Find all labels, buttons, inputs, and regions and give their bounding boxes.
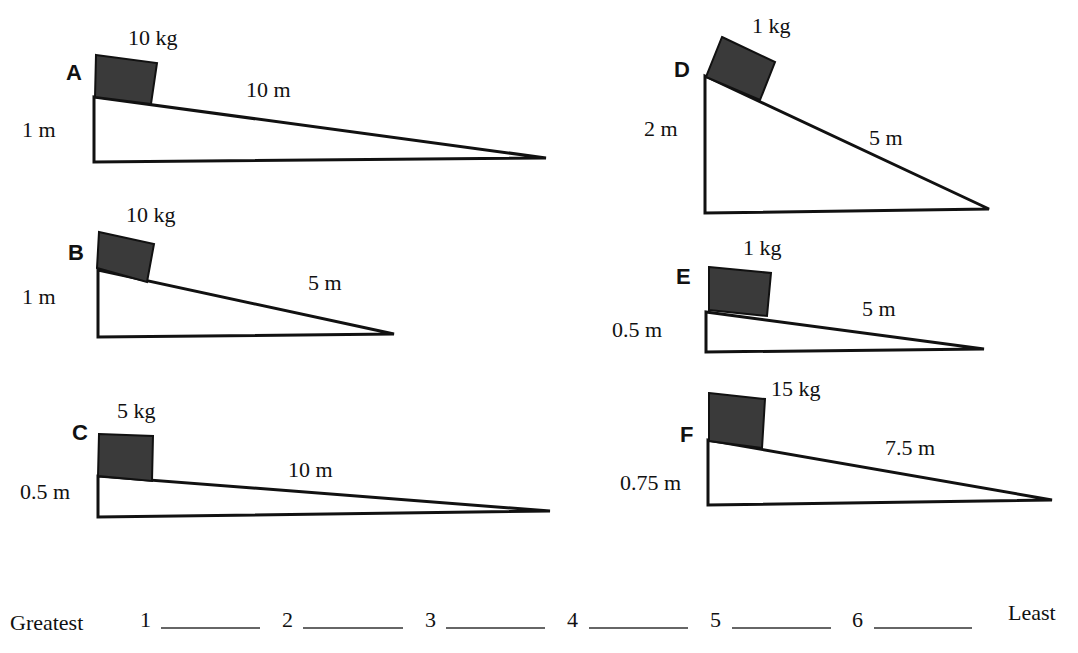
ramp-e-letter: E <box>676 264 691 289</box>
ramp-f-mass: 15 kg <box>771 376 821 401</box>
ramp-e-block <box>709 267 771 316</box>
ramp-a-length: 10 m <box>246 77 291 102</box>
rank-slot-number-2: 2 <box>282 607 293 632</box>
ramp-f-incline <box>708 440 1052 505</box>
ramp-f-length: 7.5 m <box>885 435 935 460</box>
ramp-c-mass: 5 kg <box>117 398 156 423</box>
ramp-c: C 5 kg 10 m 0.5 m <box>20 398 550 517</box>
ramp-e-mass: 1 kg <box>743 235 782 260</box>
ramp-b-length: 5 m <box>308 270 342 295</box>
ramp-c-block <box>98 434 153 481</box>
rank-slot-number-6: 6 <box>852 607 863 632</box>
ramp-e-incline <box>706 312 984 352</box>
ramps-diagram: A 10 kg 10 m 1 m B 10 kg 5 m 1 m C 5 kg … <box>0 0 1078 653</box>
ramp-a-letter: A <box>66 60 82 85</box>
ramp-c-letter: C <box>72 420 88 445</box>
ramp-d-height: 2 m <box>644 116 678 141</box>
ramp-f: F 15 kg 7.5 m 0.75 m <box>620 376 1052 505</box>
ramp-d-mass: 1 kg <box>752 13 791 38</box>
ramp-a-height: 1 m <box>22 117 56 142</box>
ramp-a: A 10 kg 10 m 1 m <box>22 25 546 162</box>
ramp-e-length: 5 m <box>862 296 896 321</box>
rank-slot-number-3: 3 <box>425 607 436 632</box>
rank-slot-number-4: 4 <box>567 607 578 632</box>
ramp-d-letter: D <box>674 57 690 82</box>
least-label: Least <box>1008 600 1056 625</box>
ramp-f-height: 0.75 m <box>620 470 681 495</box>
ranking-row: Greatest Least 1 2 3 4 5 6 <box>10 600 1056 635</box>
ramp-a-mass: 10 kg <box>128 25 178 50</box>
ramp-b-height: 1 m <box>22 284 56 309</box>
ramp-f-block <box>709 393 765 448</box>
rank-slot-number-1: 1 <box>140 607 151 632</box>
ramp-d-incline <box>705 76 989 213</box>
ramp-b: B 10 kg 5 m 1 m <box>22 202 394 337</box>
ramp-a-incline <box>94 97 546 162</box>
ramp-a-block <box>95 55 157 104</box>
ramp-b-letter: B <box>68 240 84 265</box>
ramp-d: D 1 kg 5 m 2 m <box>644 13 989 213</box>
ramp-c-incline <box>98 476 550 517</box>
greatest-label: Greatest <box>10 610 83 635</box>
ramp-b-mass: 10 kg <box>126 202 176 227</box>
ramp-c-height: 0.5 m <box>20 479 70 504</box>
ramp-f-letter: F <box>680 422 693 447</box>
rank-slot-number-5: 5 <box>710 607 721 632</box>
ramp-d-length: 5 m <box>869 125 903 150</box>
ramp-e-height: 0.5 m <box>612 317 662 342</box>
ramp-c-length: 10 m <box>288 457 333 482</box>
ramp-e: E 1 kg 5 m 0.5 m <box>612 235 984 352</box>
